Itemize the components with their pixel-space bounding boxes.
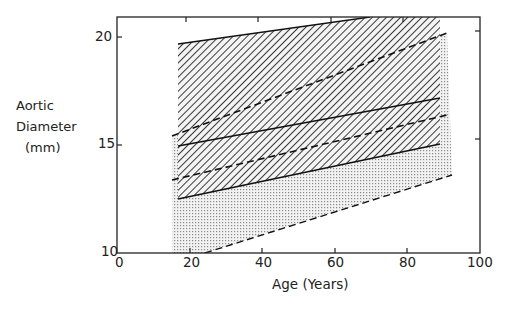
xtick-label-80: 80 bbox=[399, 256, 416, 270]
y-axis-label-line2: Diameter bbox=[16, 120, 77, 133]
ytick-label-15: 15 bbox=[98, 137, 115, 151]
xtick-label-40: 40 bbox=[255, 256, 272, 270]
x-axis-label: Age (Years) bbox=[272, 276, 349, 292]
xtick-label-0: 0 bbox=[115, 256, 124, 270]
xtick-label-100: 100 bbox=[467, 256, 493, 270]
y-axis-label-line3: (mm) bbox=[25, 141, 60, 154]
xtick-label-20: 20 bbox=[183, 256, 200, 270]
ytick-label-20: 20 bbox=[95, 30, 112, 44]
xtick-label-60: 60 bbox=[327, 256, 344, 270]
y-axis-label-line1: Aortic bbox=[16, 99, 54, 112]
